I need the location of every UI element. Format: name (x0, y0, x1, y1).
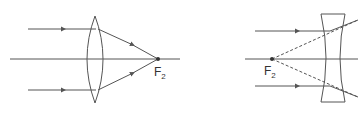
focal-point (156, 57, 160, 61)
virtual-ray-top (272, 20, 358, 59)
converging-lens-diagram: F2 (10, 16, 180, 103)
virtual-ray-bottom (272, 59, 358, 97)
focal-point (270, 57, 274, 61)
optics-diagram: F2 F2 (0, 0, 358, 117)
diverging-lens-diagram: F2 (245, 14, 358, 102)
focal-label: F2 (154, 65, 166, 81)
refracted-ray-top (330, 20, 358, 31)
focal-label: F2 (264, 64, 276, 80)
refracted-ray-bottom (98, 73, 133, 90)
refracted-ray-top (98, 29, 133, 45)
